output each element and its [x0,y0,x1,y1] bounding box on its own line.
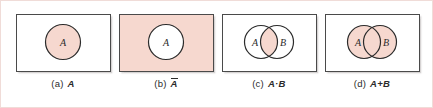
panel-row: A (a)A A (b)A [1,1,433,108]
caption-b: (b)A [154,78,177,89]
caption-tag-b: (b) [154,78,166,89]
caption-expression-c: A·B [268,78,286,89]
caption-expression-a: A [68,78,75,89]
panel-a: A (a)A [16,14,111,89]
caption-d: (d)A+B [354,78,390,89]
universe-rectangle-b: A [119,14,214,72]
caption-tag-d: (d) [354,78,366,89]
venn-diagram-figure: A (a)A A (b)A [0,0,433,108]
venn-graphic-a: A [17,15,109,70]
venn-graphic-c: A B [223,15,315,70]
panel-b: A (b)A [119,14,214,89]
circle-label-b: B [382,37,388,48]
panel-c: A B (c)A·B [222,14,317,89]
circle-label-a: A [250,37,258,48]
circle-label-a: A [161,37,169,48]
circle-label-a: A [353,37,361,48]
caption-expression-b: A [171,78,178,89]
circle-label-a: A [58,37,66,48]
venn-graphic-b: A [120,15,212,70]
caption-a: (a)A [51,78,74,89]
universe-rectangle-a: A [16,14,111,72]
panel-d: A B (d)A+B [325,14,420,89]
caption-tag-c: (c) [252,78,264,89]
universe-rectangle-c: A B [222,14,317,72]
universe-rectangle-d: A B [325,14,420,72]
caption-c: (c)A·B [252,78,285,89]
caption-expression-d: A+B [370,78,390,89]
caption-tag-a: (a) [51,78,63,89]
venn-graphic-d: A B [326,15,418,70]
circle-label-b: B [279,37,285,48]
